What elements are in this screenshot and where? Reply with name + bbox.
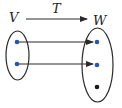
codomain-point-w1 (95, 40, 100, 45)
injective-map-diagram: V T W (0, 0, 122, 108)
domain-label: V (9, 10, 20, 25)
codomain-point-w3-unmapped (95, 85, 100, 90)
domain-point-v1 (15, 40, 20, 45)
domain-point-v2 (15, 62, 20, 67)
domain-set-v (6, 31, 29, 80)
codomain-label: W (93, 13, 108, 28)
codomain-point-w2 (95, 63, 100, 68)
map-label: T (52, 1, 62, 16)
